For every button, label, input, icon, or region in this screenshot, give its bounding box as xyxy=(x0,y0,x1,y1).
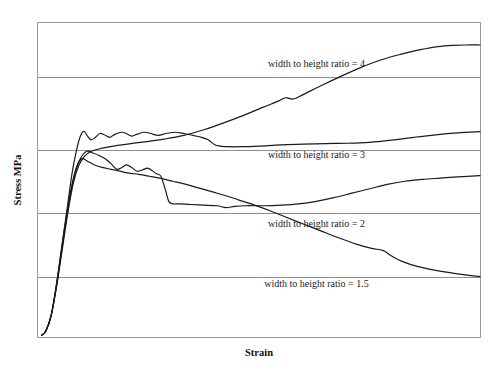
label-ratio-1.5: width to height ratio = 1.5 xyxy=(264,278,369,289)
label-ratio-4: width to height ratio = 4 xyxy=(268,58,365,69)
y-axis-title: Stress MPa xyxy=(12,154,23,206)
label-ratio-3: width to height ratio = 3 xyxy=(268,149,365,160)
x-axis-title: Strain xyxy=(245,347,273,358)
chart-page: width to height ratio = 4width to height… xyxy=(0,0,499,371)
chart-background xyxy=(0,0,499,371)
label-ratio-2: width to height ratio = 2 xyxy=(268,218,365,229)
stress-strain-chart: width to height ratio = 4width to height… xyxy=(0,0,499,371)
